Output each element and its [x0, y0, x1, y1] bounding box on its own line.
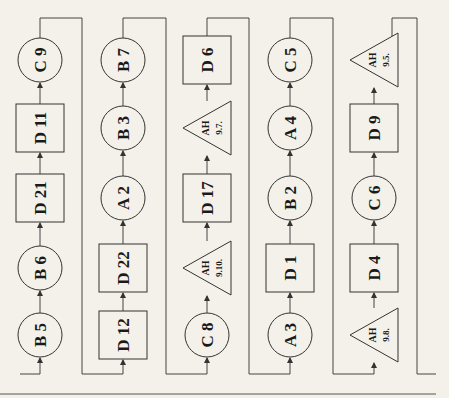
node-a-2: A 2	[101, 176, 145, 220]
svg-text:C 6: C 6	[365, 185, 384, 210]
svg-text:9.5.: 9.5.	[381, 53, 391, 67]
svg-text:D 22: D 22	[114, 251, 133, 285]
svg-text:9.10.: 9.10.	[214, 259, 224, 277]
svg-text:C 9: C 9	[31, 47, 50, 72]
svg-text:B 3: B 3	[114, 116, 133, 140]
node-d-22: D 22	[99, 244, 147, 292]
svg-text:D 4: D 4	[365, 255, 384, 281]
node-ah-9-10-: AH9.10.	[183, 241, 231, 295]
svg-text:C 8: C 8	[198, 322, 217, 347]
node-b-7: B 7	[101, 38, 145, 82]
node-a-4: A 4	[268, 106, 312, 150]
node-b-5: B 5	[18, 313, 62, 357]
svg-text:D 12: D 12	[114, 318, 133, 352]
node-c-5: C 5	[268, 38, 312, 82]
node-d-4: D 4	[350, 244, 398, 292]
node-a-3: A 3	[268, 313, 312, 357]
svg-text:B 6: B 6	[31, 256, 50, 280]
node-c-8: C 8	[185, 313, 229, 357]
svg-text:A 2: A 2	[114, 186, 133, 210]
svg-text:AH: AH	[367, 52, 378, 67]
node-c-9: C 9	[18, 38, 62, 82]
node-d-12: D 12	[99, 311, 147, 359]
node-d-17: D 17	[183, 174, 231, 222]
svg-text:C 5: C 5	[281, 47, 300, 72]
node-ah-9-7-: AH9.7.	[183, 101, 231, 155]
svg-text:D 21: D 21	[31, 181, 50, 215]
svg-text:D 1: D 1	[281, 255, 300, 280]
diagram-nodes: B 5B 6D 21D 11C 9D 12D 22A 2B 3B 7C 8AH9…	[16, 33, 398, 362]
svg-text:B 7: B 7	[114, 47, 133, 72]
svg-text:B 2: B 2	[281, 186, 300, 210]
node-ah-9-8-: AH9.8.	[350, 308, 398, 362]
node-ah-9-5-: AH9.5.	[350, 33, 398, 87]
node-b-3: B 3	[101, 106, 145, 150]
node-d-9: D 9	[350, 104, 398, 152]
node-c-6: C 6	[352, 176, 396, 220]
node-b-2: B 2	[268, 176, 312, 220]
svg-text:AH: AH	[367, 327, 378, 342]
svg-text:9.7.: 9.7.	[214, 121, 224, 135]
node-d-1: D 1	[266, 244, 314, 292]
svg-text:AH: AH	[200, 260, 211, 275]
node-b-6: B 6	[18, 246, 62, 290]
node-d-6: D 6	[183, 36, 231, 84]
svg-text:AH: AH	[200, 120, 211, 135]
svg-text:D 6: D 6	[198, 47, 217, 72]
diagram-canvas: B 5B 6D 21D 11C 9D 12D 22A 2B 3B 7C 8AH9…	[0, 0, 449, 398]
svg-text:A 4: A 4	[281, 115, 300, 140]
svg-text:B 5: B 5	[31, 323, 50, 347]
node-d-21: D 21	[16, 174, 64, 222]
flow-diagram: B 5B 6D 21D 11C 9D 12D 22A 2B 3B 7C 8AH9…	[0, 0, 449, 398]
svg-text:D 17: D 17	[198, 181, 217, 215]
svg-text:D 11: D 11	[31, 112, 50, 145]
svg-text:D 9: D 9	[365, 115, 384, 140]
svg-text:9.8.: 9.8.	[381, 328, 391, 342]
node-d-11: D 11	[16, 104, 64, 152]
svg-text:A 3: A 3	[281, 323, 300, 347]
